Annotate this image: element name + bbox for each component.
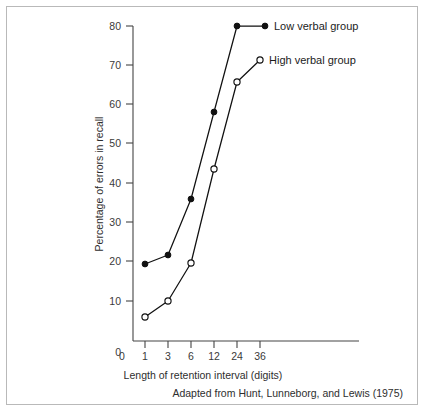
y-tick-label-80: 80: [109, 20, 121, 32]
data-point-low-12: [211, 109, 217, 115]
y-axis: 80 70 60 50 40 30 20 10 0 Percentage of …: [93, 20, 133, 358]
figure-caption: Adapted from Hunt, Lunneborg, and Lewis …: [172, 387, 403, 399]
y-tick-label-60: 60: [109, 98, 121, 110]
y-axis-title: Percentage of errors in recall: [93, 117, 105, 252]
x-tick-label-24: 24: [231, 350, 243, 362]
data-point-low-1: [142, 261, 148, 267]
legend-label-high-verbal: High verbal group: [269, 54, 356, 66]
y-tick-label-10: 10: [109, 295, 121, 307]
y-tick-label-20: 20: [109, 255, 121, 267]
y-tick-label-30: 30: [109, 216, 121, 228]
x-tick-label-3: 3: [165, 350, 171, 362]
data-point-high-12: [211, 166, 217, 172]
figure-frame: 80 70 60 50 40 30 20 10 0 Percentage of …: [6, 6, 418, 405]
data-point-high-1: [142, 314, 148, 320]
x-tick-label-1: 1: [142, 350, 148, 362]
legend-label-low-verbal: Low verbal group: [274, 20, 358, 32]
data-point-high-24: [234, 79, 240, 85]
y-tick-label-70: 70: [109, 59, 121, 71]
x-tick-label-0: 0: [119, 350, 125, 362]
legend-marker-low-verbal: [262, 23, 268, 29]
x-tick-label-12: 12: [208, 350, 220, 362]
series-high-verbal-group: High verbal group: [142, 54, 356, 320]
y-tick-label-40: 40: [109, 177, 121, 189]
y-tick-label-50: 50: [109, 137, 121, 149]
data-point-high-6: [188, 260, 194, 266]
x-tick-label-6: 6: [188, 350, 194, 362]
x-axis-title: Length of retention interval (digits): [124, 369, 283, 381]
x-tick-label-36: 36: [254, 350, 266, 362]
data-point-low-24: [234, 23, 240, 29]
line-chart: 80 70 60 50 40 30 20 10 0 Percentage of …: [7, 7, 417, 404]
data-point-low-3: [165, 252, 171, 258]
data-point-high-36: [257, 57, 263, 63]
x-axis: 0 1 3 6 12 24 36 Length of retention int…: [119, 341, 359, 381]
data-point-low-6: [188, 196, 194, 202]
series-low-verbal-line: [145, 26, 265, 264]
data-point-high-3: [165, 298, 171, 304]
series-high-verbal-line: [145, 60, 260, 317]
